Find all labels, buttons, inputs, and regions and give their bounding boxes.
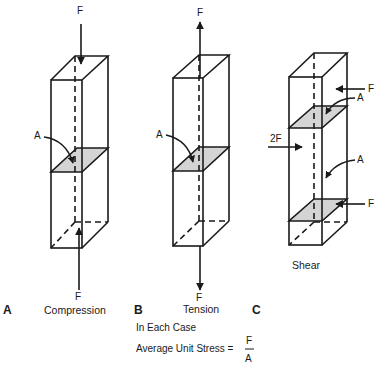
area-pointer-bottom [326, 160, 355, 178]
formula-numerator: F [246, 336, 252, 346]
area-label-top: A [357, 93, 364, 103]
force-label-top: F [77, 6, 83, 16]
force-label-bottom: F [75, 292, 81, 302]
formula-denominator: A [245, 354, 252, 364]
area-label: A [156, 130, 163, 140]
caption-compression: Compression [44, 305, 106, 316]
panel-letter-b: B [134, 304, 143, 316]
shear-prism [289, 53, 347, 245]
force-label-right-bottom: F [368, 199, 374, 209]
panel-letter-a: A [3, 304, 12, 316]
force-label-left-middle: 2F [270, 134, 282, 144]
formula-intro: In Each Case [136, 323, 196, 333]
tension-prism [173, 55, 229, 246]
force-label-top: F [197, 8, 203, 18]
area-label: A [34, 131, 41, 141]
cross-section-area [51, 148, 108, 172]
area-label-bottom: A [357, 155, 364, 165]
caption-shear: Shear [292, 260, 320, 271]
cross-section-area-top [289, 106, 347, 128]
panel-letter-c: C [252, 304, 261, 316]
caption-tension: Tension [183, 304, 219, 315]
force-label-right-top: F [368, 84, 374, 94]
force-label-bottom: F [196, 293, 202, 303]
cross-section-area-bottom [289, 199, 347, 221]
formula-lhs: Average Unit Stress = [136, 344, 233, 354]
cross-section-area [173, 147, 229, 171]
compression-prism [51, 56, 108, 248]
